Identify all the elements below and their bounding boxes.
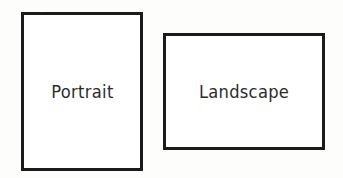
landscape-rectangle-label: Landscape <box>199 84 289 101</box>
landscape-rectangle[interactable]: Landscape <box>163 33 325 150</box>
portrait-rectangle-label: Portrait <box>51 84 113 101</box>
portrait-rectangle[interactable]: Portrait <box>21 12 143 171</box>
diagram-canvas: Portrait Landscape <box>0 0 343 178</box>
